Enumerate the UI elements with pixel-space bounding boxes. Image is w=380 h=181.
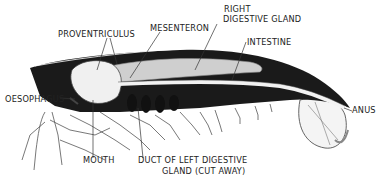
label-duct-line1: DUCT OF LEFT DIGESTIVE [138, 156, 247, 165]
label-anus: ANUS [352, 106, 376, 115]
label-right-digestive-gland-line2: DIGESTIVE GLAND [223, 15, 301, 24]
label-right-digestive-gland-line1: RIGHT [224, 5, 251, 14]
label-mesenteron: MESENTERON [150, 24, 209, 33]
label-duct-line2: GLAND (CUT AWAY) [162, 167, 245, 176]
label-intestine: INTESTINE [247, 38, 291, 47]
label-oesophagus: OESOPHAGUS [5, 95, 64, 104]
label-proventriculus: PROVENTRICULUS [58, 30, 135, 39]
label-mouth: MOUTH [83, 156, 115, 165]
